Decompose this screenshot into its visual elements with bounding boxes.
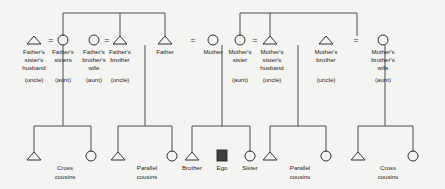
label-line: (uncle) (317, 76, 336, 83)
label-line: (aunt) (55, 76, 71, 83)
label-line: Father's (109, 48, 131, 55)
label-line: Mother's (260, 48, 283, 55)
label-line: cousins (55, 173, 76, 180)
marriage-father-mother: = (190, 35, 195, 45)
label-line: Father's (52, 48, 74, 55)
square-ego-icon (217, 150, 227, 161)
label-line: Father's (83, 48, 105, 55)
label-line: (uncle) (25, 76, 44, 83)
label-line: brother (110, 56, 129, 63)
label-line: sisters (54, 56, 72, 63)
label-line: sister's (263, 56, 282, 63)
label-line: (aunt) (375, 76, 391, 83)
label-line: (uncle) (263, 76, 282, 83)
marriage-fz-husband: = (48, 35, 53, 45)
label-line: Father (156, 48, 174, 55)
label-line: brother (316, 56, 335, 63)
person-ego[interactable]: Ego (217, 150, 228, 171)
label-line: husband (22, 64, 45, 71)
label-line: Father's (23, 48, 45, 55)
marriage-mb-wife: = (353, 35, 358, 45)
label-line: brother's (82, 56, 106, 63)
label-line: Mother's (371, 48, 394, 55)
label-line: Parallel (290, 164, 310, 171)
label-line: cousins (378, 173, 399, 180)
label-line: Mother's (228, 48, 251, 55)
label-line: cousins (137, 173, 158, 180)
label-line: wife (88, 64, 100, 71)
label-line: brother's (371, 56, 395, 63)
label-line: (aunt) (232, 76, 248, 83)
label-line: (uncle) (111, 76, 130, 83)
label-line: sister's (25, 56, 44, 63)
label-line: wife (377, 64, 389, 71)
label-line: cousins (290, 173, 311, 180)
marriage-fb-wife: = (104, 35, 109, 45)
label-line: husband (260, 64, 283, 71)
label-line: Brother (182, 164, 202, 171)
marriage-mz-husband: = (252, 35, 257, 45)
label-line: Ego (217, 164, 228, 171)
label-line: Cross (380, 164, 396, 171)
label-line: Mother (204, 48, 223, 55)
label-line: Sister (242, 164, 258, 171)
label-line: sister (233, 56, 248, 63)
kinship-diagram: Father's sister's husband (uncle) = Fath… (0, 0, 445, 189)
label-line: (aunt) (86, 76, 102, 83)
label-line: Parallel (137, 164, 157, 171)
label-line: Cross (57, 164, 73, 171)
label-line: Mother's (314, 48, 337, 55)
